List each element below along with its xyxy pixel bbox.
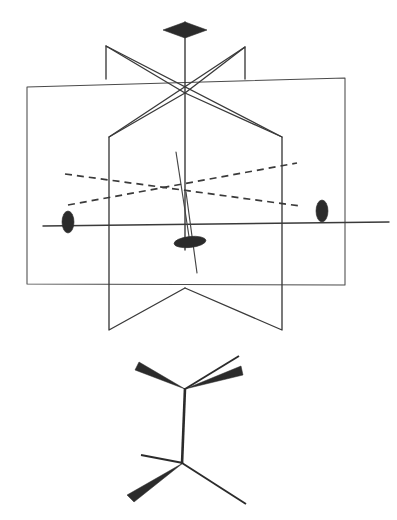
carbon-carbon-bond: [182, 388, 185, 464]
c2-axis-marker-front-icon: [174, 235, 207, 249]
bond-lower-left-plain: [141, 455, 183, 463]
c3-axis-arrowhead-icon: [163, 22, 207, 38]
bond-upper-right-wedge: [185, 366, 243, 389]
symmetry-figure-canvas: [0, 0, 397, 520]
sigma-v-plane-back-left: [106, 46, 185, 93]
figure-root: [0, 0, 397, 520]
c2-axis-marker-right-icon: [316, 200, 328, 222]
bond-lower-left-wedge: [127, 463, 183, 502]
sigma-v-plane-back-right: [185, 47, 245, 93]
c2-axis-marker-left-icon: [62, 211, 74, 233]
c2-axis-dashed-upper-left: [65, 174, 300, 206]
sigma-v-plane-rear-wide: [27, 78, 345, 285]
sigma-v-plane-front-left: [109, 93, 185, 330]
c2-axis-dashed-lower-left: [68, 163, 297, 205]
c2-axis-horizontal: [43, 222, 389, 226]
sigma-v-plane-front-right: [185, 93, 282, 330]
bond-lower-right-plain: [182, 463, 246, 504]
c2-axis-front-upper-segment: [176, 152, 190, 243]
symmetry-element-diagram: [27, 22, 389, 330]
molecular-structure: [127, 356, 246, 504]
bond-upper-left-wedge: [135, 362, 185, 389]
c2-axis-front-lower-segment: [186, 192, 197, 273]
